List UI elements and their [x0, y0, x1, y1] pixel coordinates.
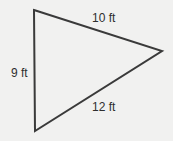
triangle-diagram: 10 ft 9 ft 12 ft: [0, 0, 173, 141]
side-label-bottom: 12 ft: [92, 101, 115, 113]
side-label-left: 9 ft: [11, 67, 28, 79]
side-label-top: 10 ft: [92, 12, 115, 24]
